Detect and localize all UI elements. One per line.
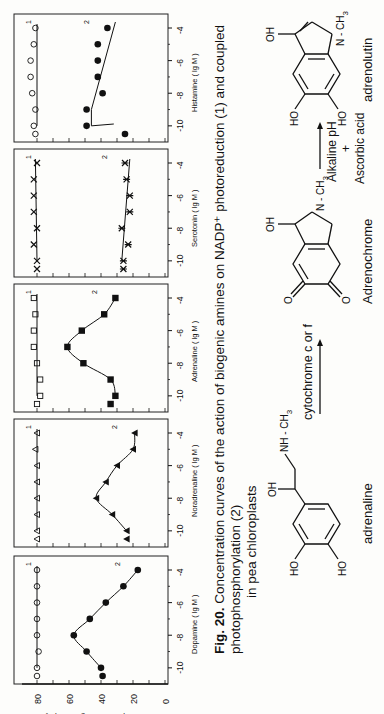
arrow-2-plus: + bbox=[339, 145, 353, 152]
arrow-1-label: cytochrome c or f bbox=[301, 324, 315, 420]
x-axis-label: Noradrenaline ( lg M ) bbox=[190, 444, 199, 517]
adrenochrome-o-2: O bbox=[341, 296, 352, 304]
curve-label: 2 bbox=[91, 290, 98, 294]
adrenaline-ho-2: HO bbox=[337, 561, 348, 576]
series-1: 1 bbox=[25, 425, 40, 542]
chart-area: 806040200µmol h⁻¹ mg chlorophyll⁻¹ -10-8… bbox=[0, 0, 210, 714]
curve-label: 1 bbox=[25, 425, 32, 429]
y-tick-label: 40 bbox=[97, 694, 107, 704]
x-axis-label: Serotonin ( lg M ) bbox=[190, 189, 199, 247]
x-tick-label: -6 bbox=[175, 329, 185, 337]
x-axis-label: Dopamine ( lg M ) bbox=[190, 594, 199, 654]
curve-label: 1 bbox=[25, 290, 32, 294]
reaction-scheme: OH HO HO NH - CH3 adrenaline cytochrome … bbox=[250, 0, 384, 714]
value-axis: 806040200µmol h⁻¹ mg chlorophyll⁻¹ bbox=[22, 684, 171, 714]
figure-label: Fig. 20. bbox=[212, 607, 227, 654]
adrenolutin-ho-2: HO bbox=[337, 111, 348, 126]
series-2: 2 bbox=[93, 425, 138, 543]
x-tick-label: -8 bbox=[175, 496, 185, 504]
series-1: 1 bbox=[25, 562, 42, 679]
adrenaline-structure bbox=[278, 454, 340, 559]
chart-panel-dopamine: -10-8-6-4Dopamine ( lg M )12 bbox=[14, 556, 199, 684]
adrenolutin-nch3: N - CH3 bbox=[335, 10, 350, 46]
y-tick-label: 80 bbox=[33, 694, 43, 704]
x-tick-label: -10 bbox=[175, 661, 185, 674]
series-1: 1 bbox=[25, 20, 39, 137]
figure-page: 806040200µmol h⁻¹ mg chlorophyll⁻¹ -10-8… bbox=[0, 0, 384, 714]
x-tick-label: -4 bbox=[175, 431, 185, 439]
series-2: 2 bbox=[101, 155, 133, 272]
curve-label: 1 bbox=[25, 562, 32, 566]
adrenochrome-structure bbox=[278, 212, 342, 297]
adrenochrome-oh: OH bbox=[265, 217, 276, 232]
curve-label: 2 bbox=[114, 562, 121, 566]
x-axis-label: Histamine ( lg M ) bbox=[190, 53, 199, 112]
series-1: 1 bbox=[25, 155, 40, 272]
caption-line-1: Concentration curves of the action of bi… bbox=[212, 25, 243, 654]
x-tick-label: -10 bbox=[175, 119, 185, 132]
curve-label: 2 bbox=[83, 20, 90, 24]
x-tick-label: -6 bbox=[175, 194, 185, 202]
adrenaline-ho-1: HO bbox=[289, 561, 300, 576]
chart-panel-noradrenaline: -10-8-6-4Noradrenaline ( lg M )12 bbox=[14, 419, 199, 547]
adrenolutin-structure bbox=[278, 22, 340, 109]
chart-panel-adrenaline: -10-8-6-4Adrenaline ( lg M )12 bbox=[14, 284, 199, 412]
curve-label: 2 bbox=[111, 425, 118, 429]
x-tick-label: -6 bbox=[175, 464, 185, 472]
adrenaline-label: adrenaline bbox=[360, 483, 375, 544]
y-tick-label: 0 bbox=[161, 699, 171, 704]
x-tick-label: -4 bbox=[175, 568, 185, 576]
arrow-2-label-top: Alkaline pH bbox=[325, 121, 339, 182]
x-tick-label: -4 bbox=[175, 26, 185, 34]
arrow-1-head bbox=[317, 339, 323, 346]
x-tick-label: -4 bbox=[175, 296, 185, 304]
curve-label: 2 bbox=[101, 155, 108, 159]
x-tick-label: -8 bbox=[175, 361, 185, 369]
chart-panel-histamine: -10-8-6-4Histamine ( lg M )12 bbox=[14, 14, 199, 142]
x-tick-label: -8 bbox=[175, 633, 185, 641]
series-2: 2 bbox=[71, 562, 142, 679]
x-tick-label: -8 bbox=[175, 226, 185, 234]
arrow-2-label-bottom: Ascorbic acid bbox=[353, 113, 367, 184]
chart-panel-serotonin: -10-8-6-4Serotonin ( lg M )12 bbox=[14, 149, 199, 277]
adrenaline-nhch3: NH - CH3 bbox=[279, 409, 294, 452]
adrenolutin-oh: OH bbox=[265, 27, 276, 42]
x-tick-label: -6 bbox=[175, 59, 185, 67]
adrenolutin-ho-1: HO bbox=[289, 111, 300, 126]
arrow-2-head bbox=[317, 122, 323, 129]
series-2: 2 bbox=[83, 20, 128, 137]
curve-label: 1 bbox=[25, 155, 32, 159]
adrenolutin-label: adrenolutin bbox=[360, 38, 375, 102]
x-tick-label: -10 bbox=[175, 524, 185, 537]
series-2: 2 bbox=[64, 290, 118, 407]
x-tick-label: -10 bbox=[175, 254, 185, 267]
adrenochrome-o-1: O bbox=[283, 296, 294, 304]
y-tick-label: 20 bbox=[129, 694, 139, 704]
y-tick-label: 60 bbox=[65, 694, 75, 704]
x-tick-label: -4 bbox=[175, 161, 185, 169]
x-tick-label: -10 bbox=[175, 389, 185, 402]
x-tick-label: -6 bbox=[175, 601, 185, 609]
curve-label: 1 bbox=[25, 20, 32, 24]
adrenaline-oh-top: OH bbox=[267, 482, 278, 497]
x-tick-label: -8 bbox=[175, 91, 185, 99]
adrenochrome-label: Adrenochrome bbox=[360, 219, 375, 304]
series-1: 1 bbox=[25, 290, 43, 407]
x-axis-label: Adrenaline ( lg M ) bbox=[190, 320, 199, 382]
